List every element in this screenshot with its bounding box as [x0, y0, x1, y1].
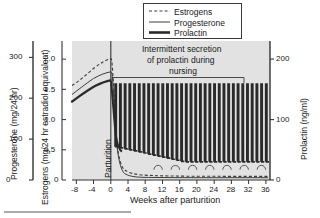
x-tick-0: 0: [108, 186, 112, 194]
x-tick-28: 28: [226, 186, 235, 194]
x-tick-32: 32: [244, 186, 253, 194]
x-tick-16: 16: [175, 186, 184, 194]
x-tick--4: -4: [88, 186, 95, 194]
annotation-nursing-line2: of prolactin during: [147, 56, 215, 65]
y-tick-prog-300: 300: [9, 53, 22, 61]
x-tick-12: 12: [158, 186, 167, 194]
figure-root: Estrogens Progesterone Prolactin: [0, 0, 320, 218]
annotation-parturition: Parturition: [104, 139, 113, 178]
annotation-nursing-line3: nursing: [169, 67, 197, 76]
x-tick--8: -8: [71, 186, 78, 194]
y-axis-title-prolactin: Prolactin (ng/ml): [300, 98, 309, 160]
annotation-nursing-line1: Intermittent secretion: [142, 45, 221, 54]
x-tick-4: 4: [126, 186, 130, 194]
y-tick-estr-0: 0: [54, 176, 58, 184]
y-axis-estrogens-ticks: [62, 59, 66, 180]
y-axis-title-estrogens: Estrogens (mg/24 hr estradiol equivalent…: [41, 50, 50, 205]
x-tick-24: 24: [209, 186, 218, 194]
y-axis-title-progesterone: Progesterone (mg/24 hr): [10, 87, 19, 180]
x-axis-title: Weeks after parturition: [130, 196, 220, 205]
x-axis-ticks: [76, 180, 266, 184]
y-tick-prl-0: 0: [276, 176, 280, 184]
y-tick-prl-100: 100: [276, 116, 289, 124]
x-tick-36: 36: [261, 186, 270, 194]
x-tick-8: 8: [143, 186, 147, 194]
x-tick-20: 20: [192, 186, 201, 194]
y-tick-prl-200: 200: [276, 55, 289, 63]
